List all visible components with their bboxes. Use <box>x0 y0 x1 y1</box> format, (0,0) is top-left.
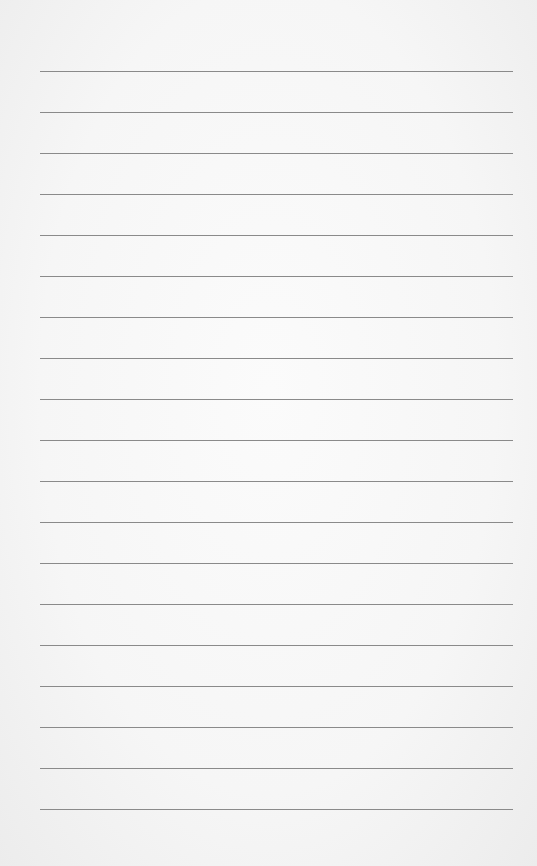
ruled-line <box>40 440 513 441</box>
ruled-line <box>40 153 513 154</box>
ruled-line <box>40 235 513 236</box>
ruled-line <box>40 317 513 318</box>
ruled-line <box>40 686 513 687</box>
lined-paper-page <box>0 0 537 866</box>
ruled-line <box>40 768 513 769</box>
ruled-line <box>40 727 513 728</box>
ruled-line <box>40 112 513 113</box>
ruled-line <box>40 809 513 810</box>
ruled-line <box>40 358 513 359</box>
ruled-line <box>40 604 513 605</box>
ruled-line <box>40 563 513 564</box>
ruled-line <box>40 522 513 523</box>
ruled-line <box>40 194 513 195</box>
ruled-line <box>40 399 513 400</box>
ruled-line <box>40 276 513 277</box>
ruled-line <box>40 645 513 646</box>
ruled-line <box>40 481 513 482</box>
ruled-line <box>40 71 513 72</box>
